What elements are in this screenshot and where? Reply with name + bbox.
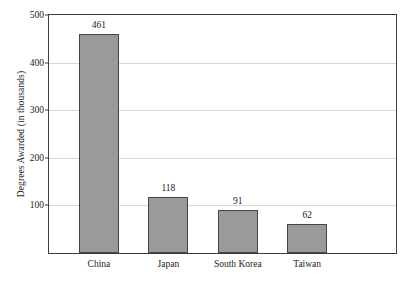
bar-group: 62Taiwan bbox=[287, 15, 327, 253]
y-axis-tick-label: 100 bbox=[30, 200, 44, 210]
x-axis-category-label: Japan bbox=[158, 258, 180, 270]
y-axis-tick-mark bbox=[45, 110, 49, 111]
bar-group: 91South Korea bbox=[218, 15, 258, 253]
y-axis-tick-label: 200 bbox=[30, 153, 44, 163]
bar bbox=[79, 34, 119, 253]
y-axis-tick-mark bbox=[45, 62, 49, 63]
y-axis-tick-label: 300 bbox=[30, 105, 44, 115]
y-axis-tick-label: 500 bbox=[30, 10, 44, 20]
bar-value-label: 118 bbox=[161, 183, 175, 194]
bar-value-label: 62 bbox=[302, 210, 312, 221]
x-axis-category-label: China bbox=[88, 258, 111, 270]
bar-group: 118Japan bbox=[148, 15, 188, 253]
plot-area: 100200300400500461China118Japan91South K… bbox=[48, 14, 397, 254]
y-axis-tick-mark bbox=[45, 205, 49, 206]
x-axis-category-label: Taiwan bbox=[293, 258, 321, 270]
y-axis-title: Degrees Awarded (in thousands) bbox=[14, 14, 28, 254]
bar bbox=[148, 197, 188, 253]
bar bbox=[218, 210, 258, 253]
y-axis-tick-label: 400 bbox=[30, 58, 44, 68]
bar-value-label: 91 bbox=[233, 196, 243, 207]
bar-value-label: 461 bbox=[92, 20, 106, 31]
y-axis-tick-mark bbox=[45, 15, 49, 16]
bar-chart: Degrees Awarded (in thousands) 100200300… bbox=[0, 0, 413, 281]
bar bbox=[287, 224, 327, 254]
y-axis-tick-mark bbox=[45, 157, 49, 158]
x-axis-category-label: South Korea bbox=[214, 258, 262, 270]
bar-group: 461China bbox=[79, 15, 119, 253]
